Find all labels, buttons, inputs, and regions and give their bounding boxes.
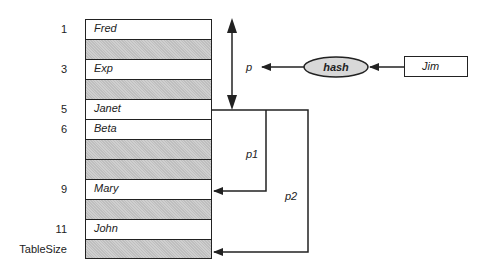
label-p: p [246, 61, 252, 73]
connector-arrows [0, 0, 485, 273]
label-p2: p2 [285, 190, 297, 202]
hash-label: hash [304, 61, 368, 73]
label-p1: p1 [246, 148, 258, 160]
key-box-jim: Jim [404, 56, 468, 77]
key-label: Jim [422, 60, 439, 72]
